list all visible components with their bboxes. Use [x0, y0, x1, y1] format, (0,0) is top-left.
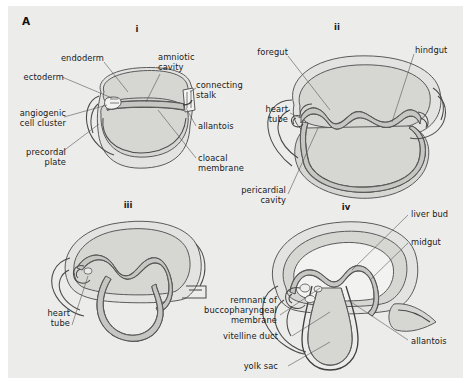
label-angiogenic-cell-cluster: angiogenic cell cluster — [6, 108, 66, 128]
label-endoderm: endoderm — [46, 53, 104, 63]
label-pericardial-cavity: pericardial cavity — [230, 185, 286, 205]
figure-container: A .ln { fill:none; stroke:#4a4a4a; strok… — [0, 0, 472, 391]
stage-numeral-ii: ii — [327, 22, 347, 32]
stage-iv-drawing — [263, 222, 436, 370]
label-precordal-plate: precordal plate — [10, 147, 66, 167]
label-hindgut: hindgut — [415, 45, 463, 55]
stage-numeral-iv: iv — [336, 202, 356, 212]
label-heart-tube-ii: heart tube — [246, 104, 288, 124]
label-connecting-stalk: connecting stalk — [196, 80, 260, 100]
label-heart-tube-iii: heart tube — [26, 308, 70, 328]
stage-ii-drawing — [268, 56, 446, 198]
label-liver-bud: liver bud — [411, 209, 465, 219]
label-midgut: midgut — [411, 237, 465, 247]
stage-iii-drawing — [52, 221, 206, 341]
label-remnant-buccopharyngeal-membrane: remnant of buccopharyngeal membrane — [203, 295, 277, 326]
label-allantois: allantois — [198, 121, 250, 131]
label-allantois-iv: allantois — [411, 336, 465, 346]
stage-numeral-i: i — [127, 24, 147, 34]
label-cloacal-membrane: cloacal membrane — [198, 153, 258, 173]
stage-i-drawing — [86, 68, 195, 169]
label-foregut: foregut — [240, 47, 288, 57]
stage-numeral-iii: iii — [118, 200, 138, 210]
label-vitelline-duct: vitelline duct — [214, 331, 278, 341]
label-yolk-sac: yolk sac — [232, 361, 278, 371]
label-amniotic-cavity: amniotic cavity — [158, 52, 218, 72]
label-ectoderm: ectoderm — [10, 72, 64, 82]
